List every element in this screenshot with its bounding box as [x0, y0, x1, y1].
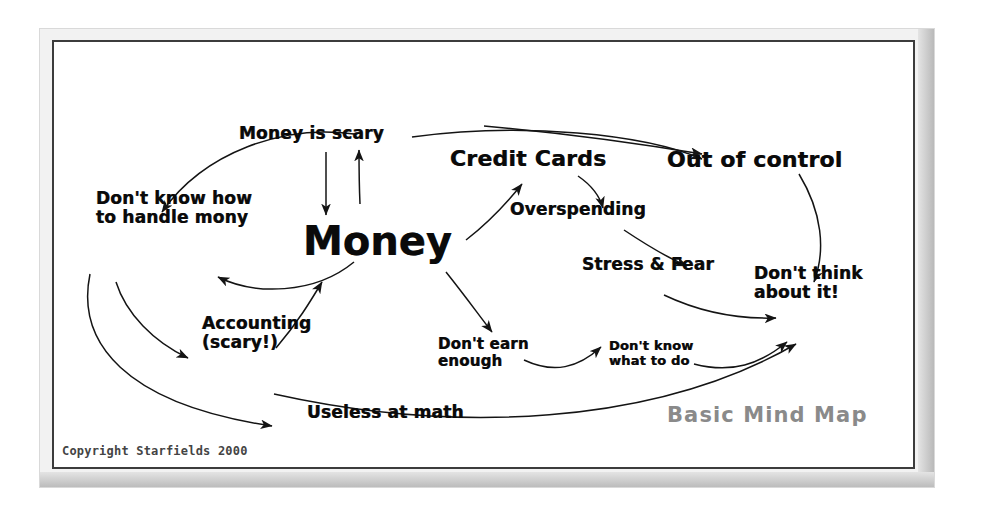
- edge-money-to-dontearn: [446, 272, 492, 332]
- mind-map-screenshot: Money Money is scary Don't know how to h…: [0, 0, 1001, 517]
- node-money-is-scary[interactable]: Money is scary: [239, 124, 384, 143]
- node-overspending[interactable]: Overspending: [510, 200, 646, 219]
- copyright-notice: Copyright Starfields 2000: [62, 445, 248, 458]
- edge-dontknowhandle-to-accounting: [116, 282, 188, 358]
- node-out-of-control[interactable]: Out of control: [667, 148, 843, 173]
- edge-money-to-scary: [359, 150, 360, 204]
- node-dont-know-what-to-do[interactable]: Don't know what to do: [609, 339, 694, 368]
- mind-map-canvas: Money Money is scary Don't know how to h…: [54, 42, 916, 475]
- node-accounting[interactable]: Accounting (scary!): [202, 314, 311, 352]
- frame-shadow-right: [918, 29, 934, 487]
- edge-dontearn-to-dontknowwhat: [524, 347, 601, 368]
- node-stress-and-fear[interactable]: Stress & Fear: [582, 255, 714, 274]
- node-credit-cards[interactable]: Credit Cards: [450, 147, 606, 172]
- edge-dontknowhandle-to-money: [218, 262, 354, 289]
- node-money[interactable]: Money: [303, 219, 452, 264]
- diagram-title-watermark: Basic Mind Map: [667, 404, 868, 428]
- node-dont-earn-enough[interactable]: Don't earn enough: [438, 336, 529, 370]
- node-dont-think-about-it[interactable]: Don't think about it!: [754, 264, 863, 302]
- node-useless-at-math[interactable]: Useless at math: [307, 403, 464, 422]
- edge-dontknowwhat-to-dontthink: [694, 342, 787, 368]
- node-dont-know-how-to-handle-mony[interactable]: Don't know how to handle mony: [96, 189, 252, 227]
